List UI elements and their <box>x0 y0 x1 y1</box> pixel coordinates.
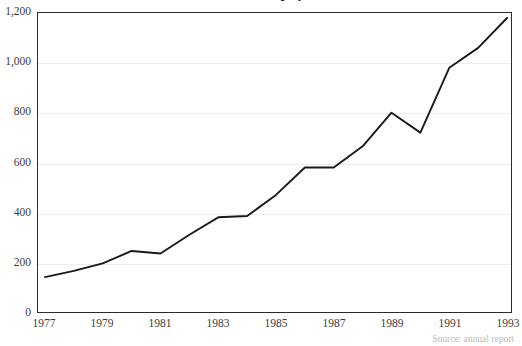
x-tick-label: 1993 <box>486 317 522 329</box>
x-tick-label: 1977 <box>22 317 66 329</box>
x-tick-label: 1983 <box>196 317 240 329</box>
x-tick-label: 1989 <box>370 317 414 329</box>
source-note-clipped: Source: annual report <box>0 334 522 346</box>
x-tick-label: 1991 <box>428 317 472 329</box>
x-tick-label: 1987 <box>312 317 356 329</box>
x-tick-label: 1981 <box>138 317 182 329</box>
x-tick-label: 1985 <box>254 317 298 329</box>
x-tick-label: 1979 <box>80 317 124 329</box>
